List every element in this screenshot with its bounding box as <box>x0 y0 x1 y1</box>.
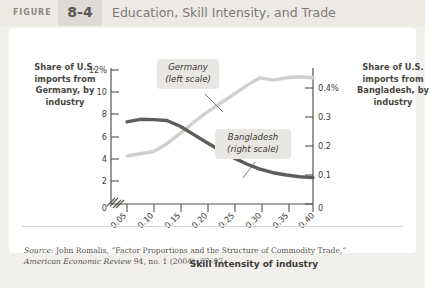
right-tick-label-02: 0.2 <box>318 141 331 151</box>
bangladesh-callout-line2: (right scale) <box>227 144 279 154</box>
x-tick-label-025: 0.25 <box>216 210 236 230</box>
card-divider <box>22 226 403 227</box>
figure-number: 8-4 <box>58 4 102 20</box>
source-line2: 94, no. 1 (2004): 67–97. <box>131 257 225 266</box>
right-axis-ticks <box>305 88 313 204</box>
left-tick-label-8: 8 <box>102 109 107 119</box>
source-journal: American Economic Review <box>24 257 131 266</box>
germany-callout-line1: Germany <box>168 62 209 72</box>
chart-card: Share of U.S. imports from Germany, by i… <box>9 28 416 253</box>
left-tick-label-12: 12% <box>89 65 107 75</box>
right-tick-label-04: 0.4% <box>318 83 339 93</box>
bangladesh-callout: Bangladesh (right scale) <box>215 129 291 159</box>
left-tick-label-0: 0 <box>102 203 107 213</box>
figure-header: FIGURE 8-4 Education, Skill Intensity, a… <box>0 0 425 26</box>
source-note: Source: John Romalis, “Factor Proportion… <box>24 246 404 267</box>
right-tick-label-0: 0 <box>318 203 323 213</box>
x-tick-label-010: 0.10 <box>135 210 155 230</box>
source-line1: John Romalis, “Factor Proportions and th… <box>54 246 347 255</box>
x-tick-label-015: 0.15 <box>162 210 182 230</box>
x-axis-ticks <box>127 204 313 212</box>
source-prefix: Source: <box>24 246 54 255</box>
germany-callout: Germany (left scale) <box>157 59 219 89</box>
left-axis-ticks <box>111 70 119 204</box>
figure-number-chip: 8-4 <box>58 0 102 26</box>
left-tick-label-6: 6 <box>102 132 107 142</box>
right-tick-label-03: 0.3 <box>318 112 331 122</box>
figure-word-label: FIGURE <box>13 8 52 17</box>
left-tick-label-10: 10 <box>97 87 107 97</box>
figure-title: Education, Skill Intensity, and Trade <box>112 5 336 20</box>
x-tick-label-005: 0.05 <box>108 210 128 230</box>
left-tick-label-2: 2 <box>102 176 107 186</box>
germany-callout-line2: (left scale) <box>165 74 211 84</box>
bangladesh-callout-line1: Bangladesh <box>228 132 278 142</box>
line-chart: 12% 10 8 6 4 2 0 0.4% 0.3 0.2 0.1 0 <box>9 28 416 253</box>
right-tick-label-01: 0.1 <box>318 170 331 180</box>
x-tick-label-030: 0.30 <box>243 210 263 230</box>
x-tick-label-020: 0.20 <box>189 210 209 230</box>
x-tick-label-040: 0.40 <box>296 210 316 230</box>
x-tick-label-035: 0.35 <box>270 210 290 230</box>
left-tick-label-4: 4 <box>102 154 107 164</box>
